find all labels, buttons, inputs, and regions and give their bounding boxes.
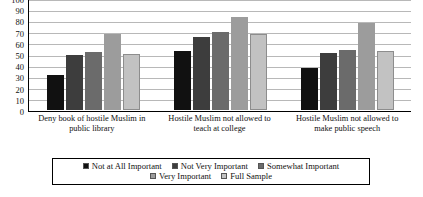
y-tick-label: 20 xyxy=(16,86,25,94)
bar xyxy=(47,75,64,110)
legend-label: Not Very Important xyxy=(181,161,248,171)
legend-swatch xyxy=(172,163,178,169)
bar-group xyxy=(30,0,157,110)
legend-swatch xyxy=(258,163,264,169)
legend-label: Very Important xyxy=(159,171,211,181)
y-tick-label: 50 xyxy=(16,52,25,60)
legend-row-1: Not at All ImportantNot Very ImportantSo… xyxy=(57,161,365,171)
bar xyxy=(123,54,140,110)
bar-groups xyxy=(30,0,411,110)
y-tick-label: 0 xyxy=(20,108,24,116)
legend-swatch xyxy=(221,173,227,179)
y-tick-label: 30 xyxy=(16,74,25,82)
legend-item: Full Sample xyxy=(221,171,272,181)
bar xyxy=(174,51,191,110)
legend-item: Not Very Important xyxy=(172,161,248,171)
legend-swatch xyxy=(150,173,156,179)
y-tick-label: 40 xyxy=(16,63,25,71)
bar xyxy=(320,53,337,110)
bar xyxy=(193,37,210,110)
legend-swatch xyxy=(83,163,89,169)
y-axis: 0102030405060708090100 xyxy=(0,0,26,112)
x-axis-label: Hostile Muslim not allowed to make publi… xyxy=(283,114,411,134)
x-axis-label: Hostile Muslim not allowed to teach at c… xyxy=(156,114,284,134)
y-tick-label: 70 xyxy=(16,30,25,38)
legend-label: Somewhat Important xyxy=(267,161,339,171)
legend-item: Not at All Important xyxy=(83,161,162,171)
bar xyxy=(212,32,229,110)
plot-area xyxy=(28,0,411,112)
legend-label: Not at All Important xyxy=(92,161,162,171)
y-tick-label: 90 xyxy=(16,7,25,15)
x-axis-labels: Deny book of hostile Muslim in public li… xyxy=(28,114,411,134)
legend: Not at All ImportantNot Very ImportantSo… xyxy=(52,158,370,185)
y-tick-label: 60 xyxy=(16,41,25,49)
bar xyxy=(231,17,248,111)
legend-label: Full Sample xyxy=(230,171,272,181)
y-tick-label: 10 xyxy=(16,97,25,105)
bar xyxy=(377,51,394,110)
bar xyxy=(339,50,356,111)
plot-wrapper: 0102030405060708090100 Deny book of host… xyxy=(0,0,423,128)
bar-group xyxy=(157,0,284,110)
y-tick-label: 80 xyxy=(16,18,25,26)
y-tick-label: 100 xyxy=(11,0,24,4)
legend-item: Somewhat Important xyxy=(258,161,339,171)
bar xyxy=(104,34,121,110)
x-axis-label: Deny book of hostile Muslim in public li… xyxy=(28,114,156,134)
bar-group xyxy=(284,0,411,110)
bar-chart: 0102030405060708090100 Deny book of host… xyxy=(0,0,423,197)
bar xyxy=(66,55,83,110)
bar xyxy=(301,68,318,110)
bar xyxy=(358,23,375,110)
bar xyxy=(250,34,267,110)
bar xyxy=(85,52,102,110)
legend-row-2: Very ImportantFull Sample xyxy=(57,171,365,181)
legend-item: Very Important xyxy=(150,171,211,181)
